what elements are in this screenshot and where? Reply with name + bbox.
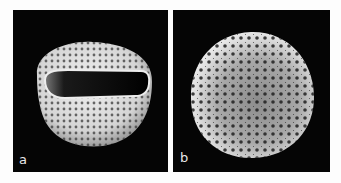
- figure: a: [0, 0, 341, 183]
- panel-label-b: b: [180, 151, 188, 164]
- panel-a: a: [13, 10, 168, 172]
- panel-label-a: a: [19, 153, 27, 166]
- pollen-grain-a-image: [13, 10, 168, 172]
- pollen-grain-b-image: [173, 10, 330, 172]
- panel-b: b: [173, 10, 330, 172]
